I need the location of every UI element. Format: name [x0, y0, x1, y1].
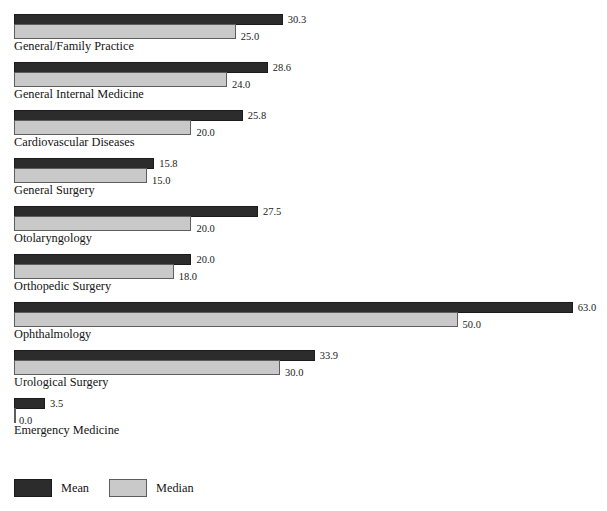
legend-item[interactable]: Mean: [14, 479, 89, 497]
bar-median: [14, 120, 191, 135]
legend-label: Mean: [61, 481, 89, 496]
bar-median: [14, 216, 191, 231]
plot-area: 30.325.0General/Family Practice28.624.0G…: [0, 0, 607, 460]
value-label-mean: 25.8: [248, 111, 266, 122]
bar-group: 27.520.0Otolaryngology: [0, 206, 607, 254]
value-label-median: 50.0: [463, 320, 481, 331]
bar-group: 3.50.0Emergency Medicine: [0, 398, 607, 446]
value-label-mean: 20.0: [196, 255, 214, 266]
bar-median: [14, 24, 236, 39]
bar-median: [14, 264, 174, 279]
bar-median: [14, 72, 227, 87]
bar-group: 15.815.0General Surgery: [0, 158, 607, 206]
value-label-mean: 27.5: [263, 207, 281, 218]
category-label: General/Family Practice: [14, 40, 134, 54]
value-label-mean: 30.3: [288, 15, 306, 26]
value-label-mean: 63.0: [578, 303, 596, 314]
bar-group: 63.050.0Ophthalmology: [0, 302, 607, 350]
bar-chart: 30.325.0General/Family Practice28.624.0G…: [0, 0, 607, 511]
legend-label: Median: [156, 481, 194, 496]
value-label-mean: 28.6: [273, 63, 291, 74]
bar-mean: [14, 398, 45, 409]
value-label-median: 15.0: [152, 176, 170, 187]
category-label: Ophthalmology: [14, 328, 91, 342]
value-label-mean: 33.9: [320, 351, 338, 362]
value-label-median: 24.0: [232, 80, 250, 91]
value-label-median: 20.0: [196, 128, 214, 139]
bar-median: [14, 168, 147, 183]
category-label: General Surgery: [14, 184, 95, 198]
category-label: Cardiovascular Diseases: [14, 136, 135, 150]
bar-group: 25.820.0Cardiovascular Diseases: [0, 110, 607, 158]
bar-median: [14, 312, 458, 327]
value-label-mean: 15.8: [159, 159, 177, 170]
category-label: General Internal Medicine: [14, 88, 144, 102]
bar-group: 33.930.0Urological Surgery: [0, 350, 607, 398]
category-label: Emergency Medicine: [14, 424, 119, 438]
value-label-median: 30.0: [285, 368, 303, 379]
bar-group: 28.624.0General Internal Medicine: [0, 62, 607, 110]
legend-swatch-median: [109, 479, 147, 497]
bar-median: [14, 360, 280, 375]
value-label-median: 18.0: [179, 272, 197, 283]
legend-item[interactable]: Median: [109, 479, 194, 497]
value-label-median: 20.0: [196, 224, 214, 235]
bar-group: 20.018.0Orthopedic Surgery: [0, 254, 607, 302]
value-label-median: 25.0: [241, 32, 259, 43]
category-label: Orthopedic Surgery: [14, 280, 111, 294]
bar-group: 30.325.0General/Family Practice: [0, 14, 607, 62]
category-label: Otolaryngology: [14, 232, 92, 246]
legend-swatch-mean: [14, 479, 52, 497]
category-label: Urological Surgery: [14, 376, 108, 390]
value-label-mean: 3.5: [50, 399, 63, 410]
bar-median: [14, 408, 16, 423]
